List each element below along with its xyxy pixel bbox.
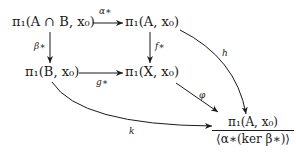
label-k: k (129, 126, 134, 136)
label-g: g∗ (96, 77, 108, 87)
node-pi1-X: π₁(X, x₀) (125, 64, 179, 79)
arrow-h (180, 30, 246, 114)
label-beta: β∗ (34, 41, 45, 51)
node-pi1-B: π₁(B, x₀) (25, 64, 79, 79)
label-phi: φ (199, 90, 205, 100)
node-pi1-A: π₁(A, x₀) (125, 14, 179, 29)
node-intersection: π₁(A ∩ B, x₀) (12, 14, 95, 29)
label-alpha: α∗ (99, 6, 111, 16)
node-quotient: π₁(A, x₀) ⟨α∗(ker β∗)⟩ (212, 115, 294, 146)
quotient-denominator: ⟨α∗(ker β∗)⟩ (212, 131, 294, 146)
quotient-numerator: π₁(A, x₀) (212, 115, 294, 131)
label-h: h (222, 48, 228, 58)
arrow-k (52, 82, 212, 126)
label-f: f∗ (155, 41, 164, 51)
arrow-phi (176, 83, 218, 112)
